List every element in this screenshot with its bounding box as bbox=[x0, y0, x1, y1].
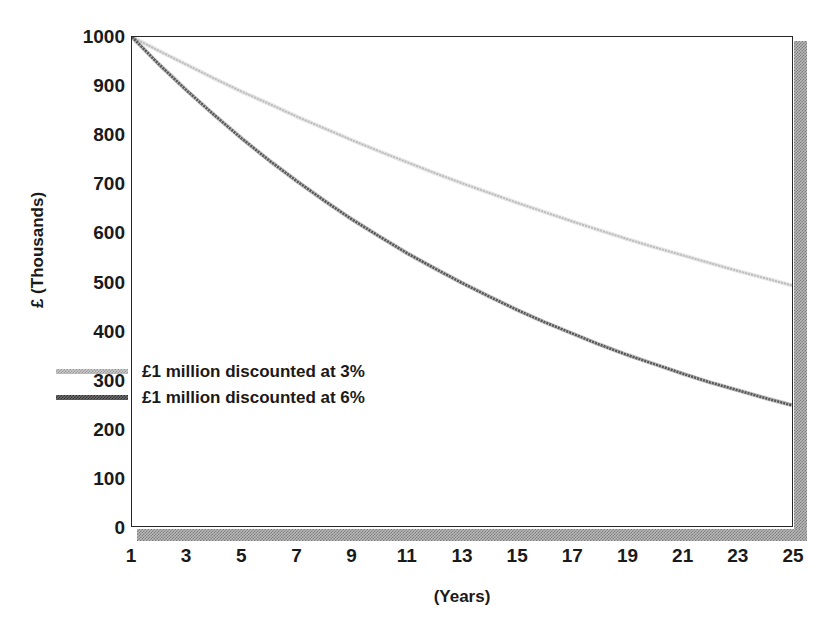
x-axis-tick-label: 17 bbox=[542, 546, 602, 565]
x-axis-tick-label: 21 bbox=[653, 546, 713, 565]
x-axis-tick-label: 25 bbox=[763, 546, 823, 565]
x-axis-tick-label: 23 bbox=[708, 546, 768, 565]
x-axis-tick-label: 11 bbox=[377, 546, 437, 565]
x-axis-tick-label: 15 bbox=[487, 546, 547, 565]
x-axis-tick-label: 3 bbox=[156, 546, 216, 565]
discount-line-chart: £ (Thousands) 01002003004005006007008009… bbox=[0, 0, 833, 629]
x-axis-tick-label: 19 bbox=[598, 546, 658, 565]
x-axis-tick-label: 1 bbox=[101, 546, 161, 565]
x-axis-title: (Years) bbox=[131, 588, 793, 605]
x-axis-tick-label: 7 bbox=[267, 546, 327, 565]
x-axis-tick-labels: 135791113151719212325 bbox=[0, 0, 833, 629]
x-axis-tick-label: 9 bbox=[322, 546, 382, 565]
x-axis-tick-label: 13 bbox=[432, 546, 492, 565]
x-axis-tick-label: 5 bbox=[211, 546, 271, 565]
